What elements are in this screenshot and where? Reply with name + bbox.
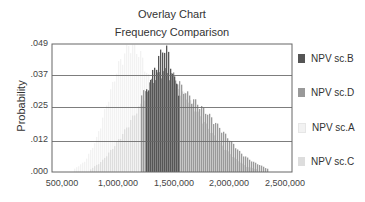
legend-item-sc-a[interactable]: NPV sc.A — [298, 122, 355, 133]
legend-label: NPV sc.B — [311, 53, 354, 64]
legend-swatch — [298, 54, 305, 63]
legend-swatch — [298, 157, 305, 166]
legend-swatch — [298, 123, 306, 133]
legend-item-sc-b[interactable]: NPV sc.B — [298, 53, 354, 64]
legend-label: NPV sc.C — [311, 156, 354, 167]
legend-label: NPV sc.A — [312, 122, 355, 133]
legend-item-sc-d[interactable]: NPV sc.D — [298, 87, 354, 98]
legend-swatch — [298, 88, 305, 97]
plot-area — [0, 0, 365, 202]
histogram-bars — [74, 45, 268, 172]
legend-label: NPV sc.D — [311, 87, 354, 98]
legend-item-sc-c[interactable]: NPV sc.C — [298, 156, 354, 167]
